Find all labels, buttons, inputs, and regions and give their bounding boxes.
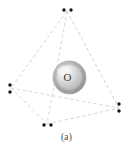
electron-dot (8, 83, 11, 86)
electron-dot (62, 8, 65, 11)
sphere-highlight (57, 66, 70, 76)
electron-dot (117, 102, 120, 105)
electron-dot (117, 109, 120, 112)
tetrahedral-geometry-diagram (0, 0, 133, 152)
figure-container: O (a) (0, 0, 133, 152)
edge-bottom-right (47, 108, 119, 124)
electron-dot (8, 90, 11, 93)
figure-caption: (a) (0, 132, 133, 142)
central-oxygen-sphere (53, 61, 86, 94)
electron-dot (42, 123, 45, 126)
electron-dot (69, 8, 72, 11)
electron-dot (49, 123, 52, 126)
